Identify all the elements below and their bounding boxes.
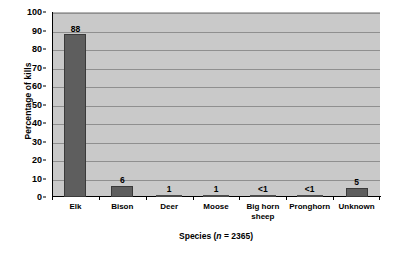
y-tick-mark xyxy=(43,30,46,31)
y-tick-label: 30 xyxy=(10,137,42,146)
y-tick-mark xyxy=(43,197,46,198)
x-tick-mark xyxy=(286,196,287,200)
y-tick-mark xyxy=(43,67,46,68)
x-axis-title: Species (n = 2365) xyxy=(52,231,380,241)
y-tick-label: 70 xyxy=(10,63,42,72)
bar-slot: <1 xyxy=(286,12,333,197)
x-tick-mark xyxy=(146,196,147,200)
y-tick-label: 100 xyxy=(10,8,42,17)
y-tick-mark xyxy=(43,49,46,50)
x-tick-mark xyxy=(99,196,100,200)
y-tick-mark xyxy=(43,160,46,161)
bar-slot: 1 xyxy=(193,12,240,197)
x-axis-title-prefix: Species ( xyxy=(179,231,216,241)
x-tick-mark xyxy=(193,196,194,200)
x-tick-label: Deer xyxy=(146,202,193,221)
y-axis-tick-labels: 1009080706050403020100 xyxy=(12,12,46,197)
x-tick-mark xyxy=(379,196,380,200)
bar-value-label: <1 xyxy=(305,185,315,194)
x-tick-mark xyxy=(52,196,53,200)
bars-layer: 88611<1<15 xyxy=(52,12,380,197)
y-tick-mark xyxy=(43,104,46,105)
y-tick-mark xyxy=(43,123,46,124)
x-tick-label: Unknown xyxy=(333,202,380,221)
y-tick-label: 0 xyxy=(10,193,42,202)
bar: 88 xyxy=(64,34,86,197)
x-tick-label: Elk xyxy=(52,202,99,221)
y-tick-mark xyxy=(43,86,46,87)
bar-value-label: 1 xyxy=(214,185,219,194)
y-tick-label: 50 xyxy=(10,100,42,109)
y-tick-mark xyxy=(43,141,46,142)
x-tick-label: Big hornsheep xyxy=(239,202,286,221)
bar-chart-figure: Percentage of kills 10090807060504030201… xyxy=(0,0,397,260)
y-tick-mark xyxy=(43,178,46,179)
bar-slot: 5 xyxy=(333,12,380,197)
bar-value-label: 5 xyxy=(354,178,359,187)
y-tick-label: 10 xyxy=(10,174,42,183)
bar-slot: 6 xyxy=(99,12,146,197)
y-tick-label: 80 xyxy=(10,45,42,54)
x-tick-mark xyxy=(239,196,240,200)
bar-value-label: 1 xyxy=(167,185,172,194)
bar-slot: 1 xyxy=(146,12,193,197)
x-axis-tick-labels: ElkBisonDeerMooseBig hornsheepPronghornU… xyxy=(52,202,380,221)
y-tick-label: 60 xyxy=(10,82,42,91)
y-tick-label: 90 xyxy=(10,26,42,35)
x-tick-mark xyxy=(333,196,334,200)
bar-value-label: 6 xyxy=(120,176,125,185)
x-tick-label: Moose xyxy=(193,202,240,221)
x-tick-label: Pronghorn xyxy=(286,202,333,221)
y-tick-mark xyxy=(43,12,46,13)
x-tick-label: Bison xyxy=(99,202,146,221)
bar-value-label: <1 xyxy=(258,185,268,194)
bar-slot: <1 xyxy=(239,12,286,197)
x-axis-title-suffix: = 2365) xyxy=(222,231,253,241)
bar-slot: 88 xyxy=(52,12,99,197)
bar-value-label: 88 xyxy=(71,25,80,34)
y-tick-label: 40 xyxy=(10,119,42,128)
y-tick-label: 20 xyxy=(10,156,42,165)
